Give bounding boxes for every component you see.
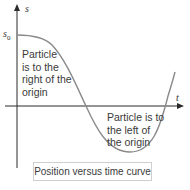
s-axis-arrow-icon [14, 4, 20, 11]
s0-subscript: 0 [7, 34, 11, 42]
region-right-line-3: right of the [22, 73, 72, 86]
region-right-line-4: origin [22, 86, 72, 99]
region-left-line-1: Particle is to [107, 111, 164, 124]
region-left-label: Particle is to the left of the origin [107, 111, 164, 149]
region-right-label: Particle is to the right of the origin [22, 48, 72, 98]
region-right-line-1: Particle [22, 48, 72, 61]
t-axis-arrow-icon [177, 103, 184, 109]
s-axis-label: s [25, 3, 29, 14]
diagram-caption: Position versus time curve [33, 162, 152, 181]
initial-position-label: s0 [3, 28, 10, 42]
region-left-line-3: the origin [107, 136, 164, 149]
t-axis-label: t [176, 92, 179, 103]
region-left-line-2: the left of [107, 124, 164, 137]
region-right-line-2: is to the [22, 61, 72, 74]
